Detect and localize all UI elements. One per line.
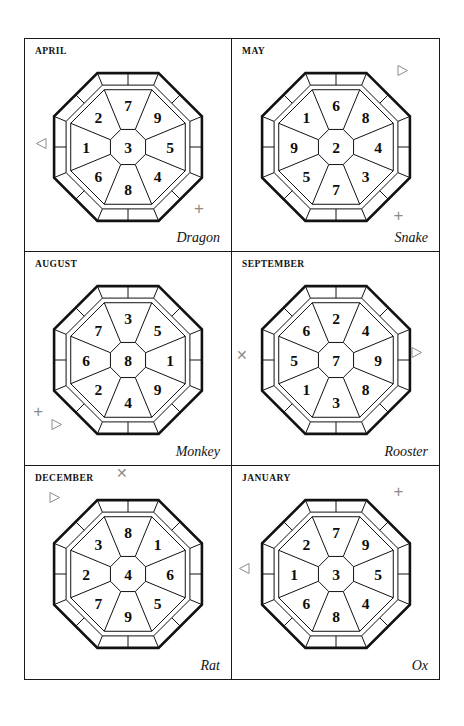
band-tick — [172, 191, 180, 199]
band-tick — [283, 191, 291, 199]
band-divider — [397, 600, 409, 605]
band-divider — [397, 173, 409, 178]
wedge-number: 9 — [374, 352, 382, 369]
month-cell: SEPTEMBER249831567✕Rooster — [232, 252, 439, 465]
wedge-edge — [71, 123, 111, 139]
band-divider — [54, 386, 66, 391]
band-tick — [172, 522, 180, 530]
wedge-edge — [343, 165, 359, 205]
wedge-edge — [312, 592, 328, 632]
band-tick — [379, 95, 387, 103]
wedge-edge — [71, 551, 111, 567]
wedge-edge — [104, 378, 120, 418]
wedge-number: 7 — [332, 181, 340, 198]
wedge-number: 9 — [154, 109, 162, 126]
wedge-number: 5 — [290, 352, 298, 369]
band-tick — [172, 618, 180, 626]
octagon-diagram: 249831567 — [252, 276, 420, 444]
wedge-number: 5 — [166, 139, 174, 156]
wedge-edge — [353, 368, 393, 384]
month-cell: MAY684375912+Snake — [232, 39, 439, 252]
wedge-number: 9 — [290, 139, 298, 156]
wedge-edge — [135, 303, 151, 343]
center-number: 7 — [332, 352, 340, 369]
wedge-edge — [312, 378, 328, 418]
wedge-number: 2 — [94, 382, 102, 399]
wedge-number: 6 — [82, 352, 90, 369]
wedge-number: 1 — [302, 382, 310, 399]
diagram-container: 351942678 — [44, 276, 212, 444]
band-divider — [190, 386, 202, 391]
wedge-number: 1 — [166, 352, 174, 369]
wedge-edge — [71, 154, 111, 170]
band-tick — [379, 522, 387, 530]
diagram-container: 249831567 — [252, 276, 420, 444]
diagram-container: 795486123 — [252, 490, 420, 658]
band-divider — [361, 209, 366, 221]
band-divider — [54, 173, 66, 178]
wedge-number: 7 — [124, 97, 132, 114]
wedge-edge — [104, 165, 120, 205]
band-divider — [361, 636, 366, 648]
band-divider — [154, 73, 159, 85]
band-divider — [54, 330, 66, 335]
diagram-container: 795486123 — [44, 63, 212, 231]
zodiac-label: Ox — [412, 658, 428, 674]
triangle-left-marker-icon — [238, 562, 251, 575]
wedge-edge — [353, 123, 393, 139]
wedge-edge — [312, 90, 328, 130]
wedge-number: 3 — [94, 536, 102, 553]
band-divider — [154, 287, 159, 299]
wedge-number: 3 — [361, 168, 369, 185]
wedge-number: 2 — [82, 566, 90, 583]
month-title: APRIL — [35, 46, 67, 56]
wedge-number: 4 — [154, 168, 162, 185]
band-divider — [54, 117, 66, 122]
band-tick — [172, 404, 180, 412]
band-divider — [154, 636, 159, 648]
wedge-number: 4 — [374, 139, 382, 156]
wedge-edge — [278, 123, 318, 139]
wedge-edge — [135, 90, 151, 130]
center-number: 3 — [124, 139, 132, 156]
band-tick — [172, 308, 180, 316]
wedge-edge — [343, 90, 359, 130]
diagram-container: 816597234 — [44, 490, 212, 658]
octagon-diagram: 351942678 — [44, 276, 212, 444]
band-divider — [154, 500, 159, 512]
band-divider — [154, 422, 159, 434]
band-divider — [262, 117, 274, 122]
octagon-diagram: 795486123 — [252, 490, 420, 658]
wedge-edge — [343, 592, 359, 632]
wedge-number: 8 — [332, 608, 340, 625]
cross-marker-icon: ✕ — [116, 466, 128, 480]
band-divider — [397, 386, 409, 391]
month-cell: JANUARY795486123+Ox — [232, 466, 439, 679]
wedge-edge — [353, 154, 393, 170]
band-tick — [283, 618, 291, 626]
band-tick — [76, 308, 84, 316]
band-divider — [262, 600, 274, 605]
wedge-number: 8 — [124, 524, 132, 541]
band-tick — [283, 308, 291, 316]
wedge-edge — [146, 551, 186, 567]
wedge-edge — [353, 337, 393, 353]
zodiac-label: Monkey — [176, 444, 220, 460]
wedge-edge — [135, 517, 151, 557]
wedge-number: 1 — [154, 536, 162, 553]
wedge-edge — [353, 551, 393, 567]
band-tick — [379, 404, 387, 412]
wedge-edge — [343, 303, 359, 343]
band-tick — [76, 404, 84, 412]
band-tick — [76, 95, 84, 103]
month-cell: DECEMBER816597234✕Rat — [25, 466, 232, 679]
wedge-number: 3 — [124, 310, 132, 327]
band-divider — [397, 544, 409, 549]
wedge-number: 9 — [124, 608, 132, 625]
band-divider — [361, 287, 366, 299]
wedge-edge — [343, 378, 359, 418]
wedge-edge — [146, 337, 186, 353]
band-divider — [397, 330, 409, 335]
month-title: JANUARY — [242, 473, 291, 483]
wedge-edge — [312, 165, 328, 205]
